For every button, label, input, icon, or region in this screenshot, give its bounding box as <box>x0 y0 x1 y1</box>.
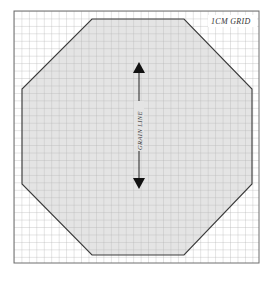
grid-label: 1cm grid <box>211 17 251 26</box>
grain-line-label: GRAIN LINE <box>136 111 143 150</box>
pattern-diagram: 1cm grid GRAIN LINE <box>0 0 273 282</box>
